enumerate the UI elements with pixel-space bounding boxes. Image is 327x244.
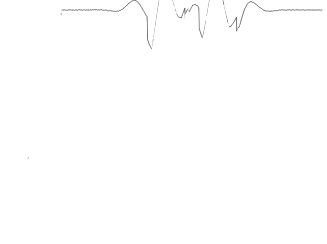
ridgeline-plot-figure: Stacked horizontal line traces forming a…: [0, 0, 327, 244]
ridgeline-surface-canvas: [0, 0, 327, 244]
